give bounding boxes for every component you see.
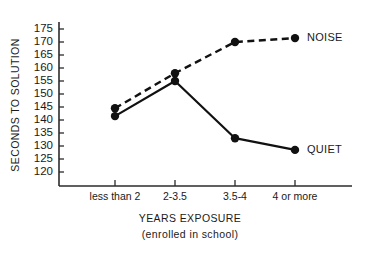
series-label-noise: NOISE <box>307 31 343 43</box>
x-tick-label: less than 2 <box>90 190 141 202</box>
line-chart: 120125130135140145150155160165170175 les… <box>0 0 368 255</box>
y-tick-label: 150 <box>34 87 53 99</box>
series-line-quiet <box>115 81 295 150</box>
data-point-noise <box>291 34 299 42</box>
data-point-noise <box>111 104 119 112</box>
y-tick-label: 125 <box>34 152 53 164</box>
series-labels: NOISEQUIET <box>307 31 343 155</box>
x-tick-label: 2-3.5 <box>163 190 187 202</box>
series-label-quiet: QUIET <box>307 143 342 155</box>
y-tick-label: 120 <box>34 165 53 177</box>
y-tick-label: 130 <box>34 139 53 151</box>
series-line-noise <box>115 38 295 108</box>
x-axis-subtitle: (enrolled in school) <box>142 228 239 240</box>
y-tick-label: 145 <box>34 100 53 112</box>
data-point-noise <box>171 69 179 77</box>
x-axis-title: YEARS EXPOSURE <box>139 212 241 224</box>
y-tick-label: 160 <box>34 61 53 73</box>
y-tick-label: 175 <box>34 22 53 34</box>
y-tick-label: 155 <box>34 74 53 86</box>
data-point-quiet <box>231 134 239 142</box>
data-point-quiet <box>111 112 119 120</box>
series-layer <box>111 34 299 154</box>
x-tick-label: 4 or more <box>273 190 318 202</box>
data-point-noise <box>231 38 239 46</box>
y-tick-label: 170 <box>34 35 53 47</box>
y-axis: 120125130135140145150155160165170175 <box>34 22 64 186</box>
data-point-quiet <box>171 77 179 85</box>
chart-container: 120125130135140145150155160165170175 les… <box>0 0 368 255</box>
x-tick-label: 3.5-4 <box>223 190 247 202</box>
y-tick-label: 165 <box>34 48 53 60</box>
data-point-quiet <box>291 146 299 154</box>
y-tick-label: 135 <box>34 126 53 138</box>
y-axis-title: SECONDS TO SOLUTION <box>9 38 21 171</box>
x-axis: less than 22-3.53.5-44 or more <box>59 180 352 202</box>
y-tick-label: 140 <box>34 113 53 125</box>
